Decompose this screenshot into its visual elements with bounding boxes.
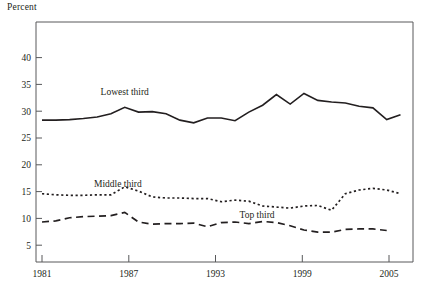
x-axis-labels: 1981 1987 1993 1999 2005	[33, 269, 399, 279]
y-tick-10: 10	[22, 214, 32, 224]
data-series-group	[42, 93, 401, 232]
axis-frame	[36, 22, 413, 262]
y-tick-35: 35	[22, 80, 32, 90]
x-tick-1999: 1999	[293, 269, 312, 279]
y-tick-5: 5	[26, 241, 31, 251]
x-tick-2005: 2005	[380, 269, 399, 279]
x-tick-1981: 1981	[33, 269, 52, 279]
x-tick-1993: 1993	[206, 269, 225, 279]
series-label-middle-third: Middle third	[94, 179, 142, 189]
series-label-top-third: Top third	[240, 210, 275, 220]
series-line-middle-third	[42, 187, 401, 210]
y-tick-15: 15	[22, 187, 32, 197]
y-axis-labels: 5 10 15 20 25 30 35 40	[22, 53, 32, 251]
y-tick-20: 20	[22, 160, 32, 170]
x-tick-1987: 1987	[119, 269, 138, 279]
y-tick-30: 30	[22, 107, 32, 117]
chart-plot-area: 5 10 15 20 25 30 35 40 1981 1987 1993 19…	[0, 0, 430, 297]
y-tick-25: 25	[22, 133, 32, 143]
series-line-lowest-third	[42, 93, 401, 122]
series-line-top-third	[42, 212, 387, 232]
chart-figure: Percent 5 10 15 20 25 30 35 40	[0, 0, 430, 297]
x-axis-ticks	[42, 255, 389, 262]
series-annotations-group: Lowest thirdMiddle thirdTop third	[94, 87, 275, 220]
y-tick-40: 40	[22, 53, 32, 63]
y-axis-ticks	[36, 58, 42, 246]
series-label-lowest-third: Lowest third	[101, 87, 150, 97]
